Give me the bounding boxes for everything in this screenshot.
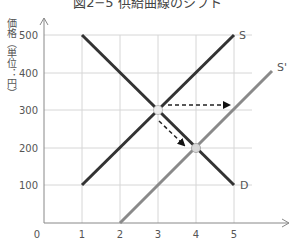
- svg-text:200: 200: [19, 143, 38, 154]
- svg-text:4: 4: [193, 229, 199, 240]
- svg-text:0: 0: [34, 229, 40, 240]
- svg-text:400: 400: [19, 68, 38, 79]
- label-D: D: [240, 179, 248, 192]
- svg-text:300: 300: [19, 105, 38, 116]
- svg-text:5: 5: [231, 229, 237, 240]
- label-S: S: [239, 29, 246, 42]
- label-S-prime: S': [277, 61, 287, 74]
- equilibrium-point-1: [154, 106, 163, 115]
- equilibrium-point-2: [192, 144, 201, 153]
- x-tick-labels: 0 1 2 3 4 5: [34, 229, 237, 240]
- svg-text:500: 500: [19, 30, 38, 41]
- svg-text:3: 3: [155, 229, 161, 240]
- y-tick-labels: 500 400 300 200 100: [19, 30, 38, 191]
- svg-text:2: 2: [117, 229, 123, 240]
- svg-text:100: 100: [19, 180, 38, 191]
- svg-text:1: 1: [79, 229, 85, 240]
- chart-plot: 500 400 300 200 100 0 1 2 3 4 5 S S' D: [0, 0, 295, 240]
- axes: [40, 18, 289, 227]
